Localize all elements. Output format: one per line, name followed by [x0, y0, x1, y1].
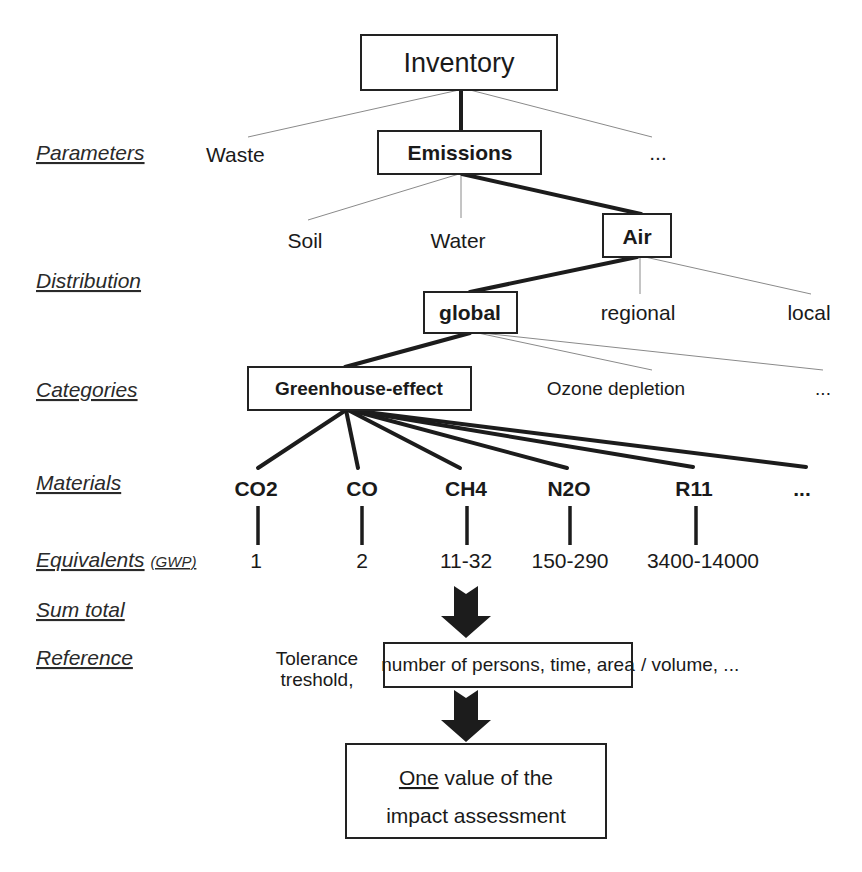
- row-label-materials: Materials: [36, 471, 122, 494]
- impact-assessment-diagram: Parameters Distribution Categories Mater…: [0, 0, 862, 872]
- material-co: CO: [346, 477, 378, 500]
- gwp-suffix: (GWP): [151, 553, 197, 570]
- greenhouse-effect-label: Greenhouse-effect: [275, 378, 444, 399]
- air-label: Air: [622, 225, 651, 248]
- reference-suffix: / volume, ...: [641, 654, 739, 675]
- local-label: local: [787, 301, 830, 324]
- gwp-n2o: 150-290: [531, 549, 608, 572]
- gwp-r11: 3400-14000: [647, 549, 759, 572]
- gwp-ch4: 11-32: [440, 549, 492, 572]
- row-label-parameters: Parameters: [36, 141, 145, 164]
- reference-box-text: number of persons, time, area: [381, 654, 635, 675]
- material-more: ...: [793, 477, 811, 500]
- gwp-co2: 1: [250, 549, 262, 572]
- inventory-label: Inventory: [403, 48, 515, 78]
- global-label: global: [439, 301, 501, 324]
- row-label-reference: Reference: [36, 646, 133, 669]
- regional-label: regional: [601, 301, 676, 324]
- emissions-label: Emissions: [407, 141, 512, 164]
- down-arrow-icon: [441, 690, 491, 742]
- material-n2o: N2O: [547, 477, 590, 500]
- parameters-more: ...: [649, 141, 667, 164]
- result-line1: One value of the: [399, 766, 553, 789]
- result-emphasis: One: [399, 766, 439, 789]
- waste-label: Waste: [206, 143, 265, 166]
- row-label-equivalents: Equivalents(GWP): [36, 548, 196, 571]
- material-r11: R11: [675, 477, 713, 500]
- row-label-sum-total: Sum total: [36, 598, 126, 621]
- row-label-categories: Categories: [36, 378, 138, 401]
- material-stems: [258, 506, 696, 545]
- tolerance-line2: treshold,: [281, 669, 354, 690]
- ozone-depletion-label: Ozone depletion: [547, 378, 685, 399]
- tolerance-line1: Tolerance: [276, 648, 358, 669]
- soil-label: Soil: [287, 229, 322, 252]
- material-ch4: CH4: [445, 477, 487, 500]
- result-line2: impact assessment: [386, 804, 566, 827]
- gwp-co: 2: [356, 549, 368, 572]
- categories-more: ...: [815, 378, 831, 399]
- down-arrow-icon: [441, 586, 491, 638]
- water-label: Water: [430, 229, 485, 252]
- row-label-distribution: Distribution: [36, 269, 141, 292]
- material-co2: CO2: [234, 477, 277, 500]
